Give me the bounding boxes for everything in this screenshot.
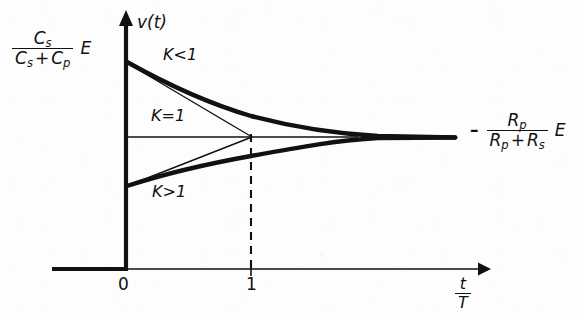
asymptote-value-label: – Rp Rp+Rs E xyxy=(470,112,566,149)
leader-dash: – xyxy=(470,122,479,139)
denominator-right-symbol: R xyxy=(527,130,539,150)
x-tick-label-1: 1 xyxy=(246,276,257,293)
y-axis-title: v(t) xyxy=(137,14,167,31)
y-axis-arrowhead xyxy=(119,10,133,26)
x-axis-arrowhead xyxy=(478,263,491,276)
numerator-subscript: s xyxy=(46,36,52,50)
emf-symbol: E xyxy=(555,122,566,139)
resistive-divider-fraction: Rp Rp+Rs xyxy=(487,112,548,149)
time-ratio-fraction: t T xyxy=(455,276,471,311)
curve-k-greater-than-one xyxy=(127,138,455,187)
denominator-right-subscript: p xyxy=(63,56,70,70)
numerator-symbol: R xyxy=(508,110,520,130)
curve-label-k-greater-than-one: K>1 xyxy=(152,184,186,200)
denominator-right-subscript: s xyxy=(539,138,545,152)
x-tick-label-0: 0 xyxy=(118,276,129,293)
time-constant-symbol: T xyxy=(455,294,471,311)
denominator-left-subscript: s xyxy=(27,56,33,70)
denominator-left-subscript: p xyxy=(501,138,508,152)
emf-symbol: E xyxy=(80,40,91,57)
denominator-left-symbol: R xyxy=(490,130,502,150)
time-symbol: t xyxy=(455,276,471,294)
fraction-numerator: Rp xyxy=(487,112,548,131)
fraction-denominator: Cs+Cp xyxy=(12,49,73,67)
denominator-operator: + xyxy=(511,130,525,150)
fraction-numerator: Cs xyxy=(12,30,73,49)
curve-label-k-equal-one: K=1 xyxy=(151,108,185,124)
curve-label-k-less-than-one: K<1 xyxy=(163,47,197,63)
fraction-denominator: Rp+Rs xyxy=(487,131,548,149)
numerator-symbol: C xyxy=(34,28,46,48)
curve-k-less-than-one xyxy=(127,62,455,138)
capacitive-divider-fraction: Cs Cs+Cp xyxy=(12,30,73,67)
figure-container: Cs Cs+Cp E – Rp Rp+Rs E v(t) K<1 K=1 K>1… xyxy=(0,0,584,318)
denominator-operator: + xyxy=(35,48,49,68)
x-axis-title: t T xyxy=(455,276,471,311)
numerator-subscript: p xyxy=(519,118,526,132)
denominator-right-symbol: C xyxy=(51,48,63,68)
denominator-left-symbol: C xyxy=(15,48,27,68)
y-axis-initial-value-label: Cs Cs+Cp E xyxy=(12,30,91,67)
